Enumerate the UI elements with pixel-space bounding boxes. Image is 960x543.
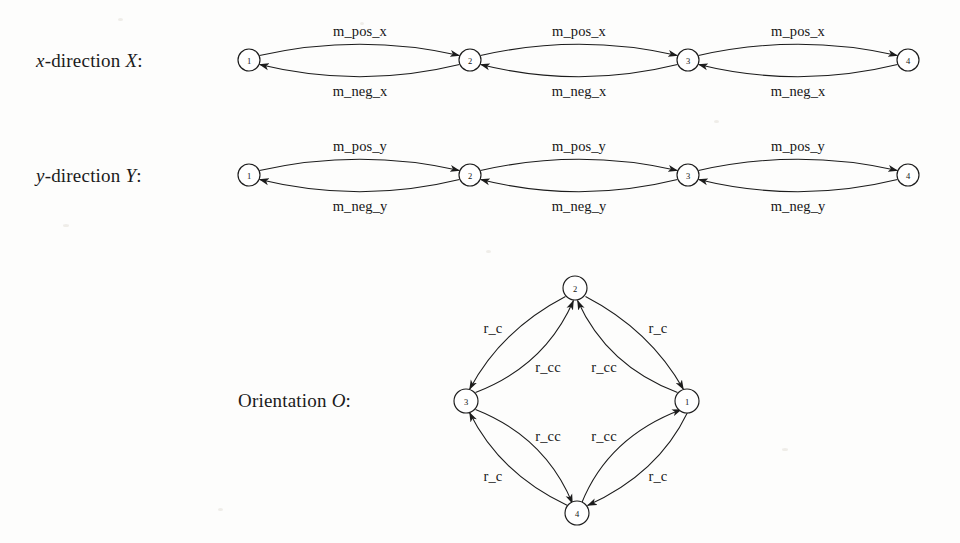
node-x-2[interactable]: 2 [459, 49, 481, 71]
edge-y-2-to-1 [260, 180, 460, 192]
node-y-4[interactable]: 4 [897, 164, 919, 186]
edge-label-o-rc-top-left: r_c [484, 320, 503, 337]
edge-label-x-pos-3: m_pos_x [771, 23, 825, 40]
edge-o-3-to-4 [476, 410, 573, 504]
edge-y-3-to-4 [699, 159, 898, 170]
node-label: 1 [247, 171, 251, 181]
node-label: 3 [686, 56, 690, 66]
figure-canvas: x-direction X: y-direction Y: Orientatio… [0, 0, 960, 543]
node-label: 1 [247, 56, 251, 66]
edge-label-y-pos-2: m_pos_y [552, 138, 606, 155]
edge-label-o-rcc-bottom-left: r_cc [535, 428, 560, 445]
graph-y-direction: 1 2 3 4 [238, 159, 919, 192]
node-label: 2 [468, 56, 472, 66]
edge-x-1-to-2 [260, 44, 460, 55]
node-label: 3 [464, 397, 468, 407]
edge-o-2-to-1 [586, 297, 684, 390]
edge-x-3-to-2 [481, 65, 678, 77]
edge-x-2-to-1 [260, 65, 460, 77]
edge-y-3-to-2 [481, 180, 678, 192]
edge-o-4-to-1 [582, 410, 682, 504]
edge-label-o-rc-bottom-left: r_c [484, 468, 503, 485]
node-label: 3 [686, 171, 690, 181]
edge-o-2-to-3 [470, 297, 566, 390]
node-x-4[interactable]: 4 [897, 49, 919, 71]
edge-label-x-pos-2: m_pos_x [552, 23, 606, 40]
node-y-2[interactable]: 2 [459, 164, 481, 186]
edge-y-4-to-3 [699, 180, 898, 192]
edge-o-1-to-2 [578, 301, 678, 393]
edge-label-y-neg-3: m_neg_y [771, 198, 826, 215]
edge-x-4-to-3 [699, 65, 898, 77]
edge-label-y-pos-3: m_pos_y [771, 138, 825, 155]
edge-o-3-to-2 [476, 301, 574, 393]
node-y-1[interactable]: 1 [238, 164, 260, 186]
edge-label-x-neg-3: m_neg_x [771, 83, 826, 100]
node-x-3[interactable]: 3 [677, 49, 699, 71]
node-o-1[interactable]: 1 [675, 389, 699, 413]
node-o-2[interactable]: 2 [563, 276, 587, 300]
edge-label-o-rcc-bottom-right: r_cc [591, 428, 616, 445]
graph-drawing-layer: 1 2 3 4 1 [0, 0, 960, 543]
node-x-1[interactable]: 1 [238, 49, 260, 71]
node-label: 2 [468, 171, 472, 181]
edge-label-x-pos-1: m_pos_x [333, 23, 387, 40]
edge-label-o-rc-bottom-right: r_c [649, 468, 668, 485]
edge-label-o-rc-top-right: r_c [649, 320, 668, 337]
edge-o-1-to-4 [588, 413, 688, 506]
edge-label-y-neg-2: m_neg_y [552, 198, 607, 215]
node-y-3[interactable]: 3 [677, 164, 699, 186]
graph-orientation: 2 3 1 4 [454, 276, 699, 525]
edge-label-y-neg-1: m_neg_y [333, 198, 388, 215]
edge-label-y-pos-1: m_pos_y [333, 138, 387, 155]
edge-y-1-to-2 [260, 159, 460, 170]
node-o-4[interactable]: 4 [565, 501, 589, 525]
node-label: 2 [573, 284, 577, 294]
graph-x-direction: 1 2 3 4 [238, 44, 919, 77]
edge-label-x-neg-2: m_neg_x [552, 83, 607, 100]
node-label: 1 [685, 397, 689, 407]
edge-o-4-to-3 [470, 413, 568, 506]
edge-label-o-rcc-top-left: r_cc [535, 359, 560, 376]
edge-y-2-to-3 [481, 159, 678, 170]
edge-label-o-rcc-top-right: r_cc [591, 359, 616, 376]
edge-x-2-to-3 [481, 44, 678, 55]
edge-label-x-neg-1: m_neg_x [333, 83, 388, 100]
edge-x-3-to-4 [699, 44, 898, 55]
node-o-3[interactable]: 3 [454, 389, 478, 413]
